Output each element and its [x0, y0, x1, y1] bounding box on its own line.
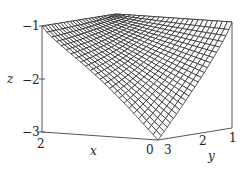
y-axis-label: y: [208, 150, 215, 162]
y-tick-3: 3: [164, 144, 172, 156]
x-axis-label: x: [90, 145, 97, 157]
z-tick-minus1: −1: [22, 20, 40, 32]
z-tick-minus2: −2: [22, 74, 40, 86]
y-tick-1: 1: [229, 132, 237, 144]
y-tick-2: 2: [199, 135, 207, 147]
wireframe-mesh: [42, 14, 232, 140]
x-tick-0: 0: [146, 144, 154, 156]
x-tick-2: 2: [37, 138, 45, 150]
z-axis-label: z: [7, 73, 13, 85]
